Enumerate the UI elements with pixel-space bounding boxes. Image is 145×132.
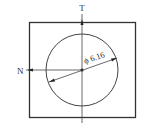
- diagram: T N ϕ 6.16: [0, 0, 145, 132]
- arrow-left-dim-icon: [49, 79, 55, 83]
- label-t: T: [79, 3, 85, 13]
- label-n: N: [17, 66, 24, 76]
